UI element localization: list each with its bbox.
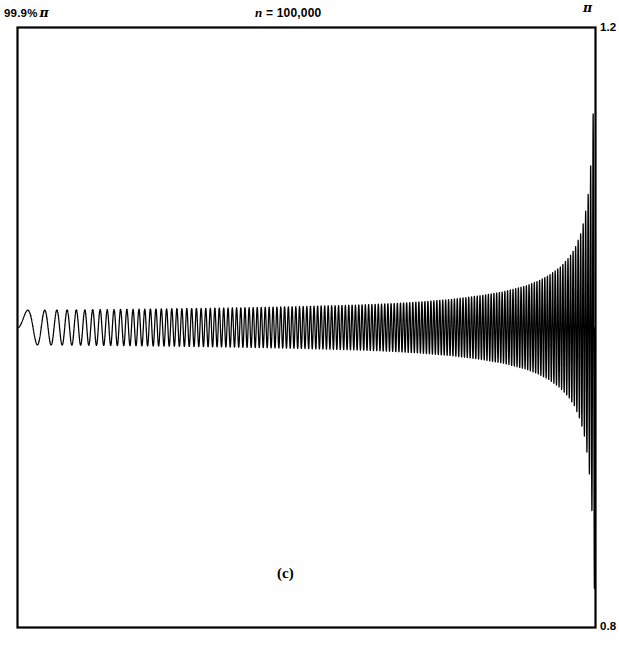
y-axis-bottom-tick-label: 0.8 bbox=[600, 621, 616, 633]
chart-title: n = 100,000 bbox=[255, 6, 322, 19]
x-axis-left-percent: 99.9% bbox=[4, 7, 38, 19]
gibbs-oscillation-curve bbox=[19, 114, 596, 588]
y-axis-top-tick-label: 1.2 bbox=[600, 22, 616, 34]
x-axis-left-label: 99.9%π bbox=[4, 7, 49, 20]
panel-label: (c) bbox=[277, 566, 294, 581]
figure-panel: 99.9%π n = 100,000 π 1.2 0.8 (c) bbox=[0, 0, 619, 648]
x-axis-left-pi-symbol: π bbox=[38, 5, 49, 20]
plot-canvas bbox=[0, 0, 619, 648]
chart-title-value: = 100,000 bbox=[262, 6, 321, 20]
x-axis-right-pi-symbol: π bbox=[583, 2, 592, 15]
